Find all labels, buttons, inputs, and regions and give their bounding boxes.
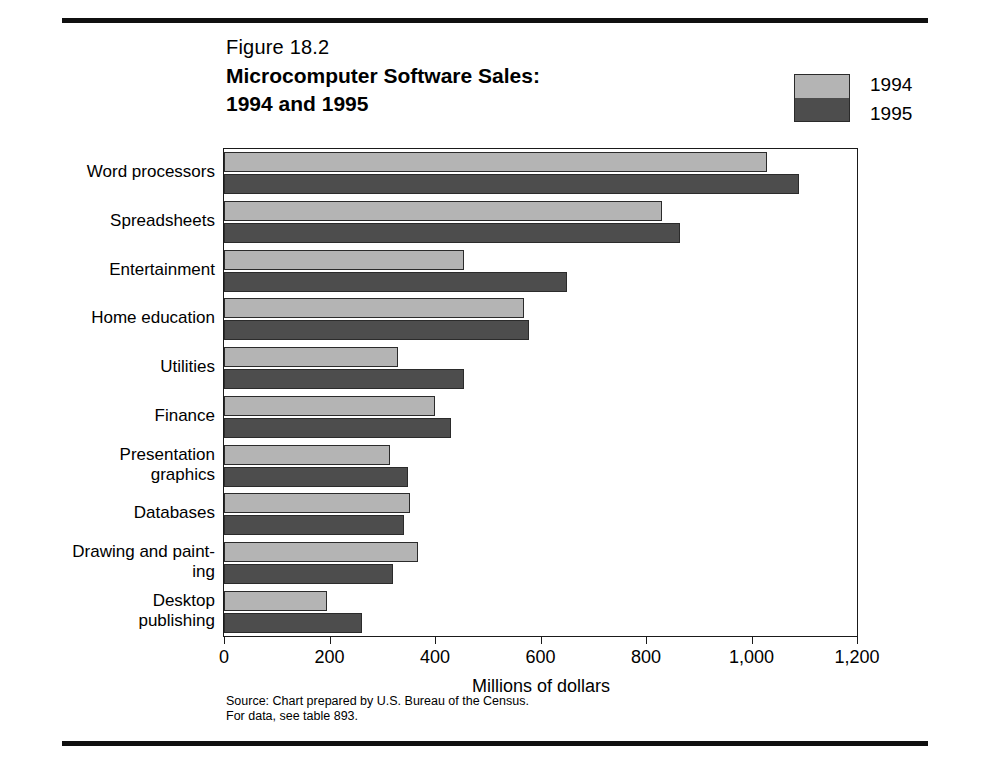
- category-label-line: Entertainment: [0, 260, 215, 280]
- x-tick-label-1000: 1,000: [729, 647, 774, 668]
- category-label-line: Utilities: [0, 357, 215, 377]
- category-label-line: publishing: [0, 611, 215, 631]
- legend-label-1994: 1994: [870, 70, 912, 99]
- bar-1994-desktop-publishing: [224, 591, 327, 611]
- category-label-finance: Finance: [0, 406, 215, 426]
- bar-1995-finance: [224, 418, 451, 438]
- category-label-line: Home education: [0, 308, 215, 328]
- bar-1994-home-education: [224, 298, 524, 318]
- category-label-line: Desktop: [0, 591, 215, 611]
- bar-1995-databases: [224, 515, 404, 535]
- chart-area: Word processorsSpreadsheetsEntertainment…: [0, 140, 990, 660]
- x-tick-label-400: 400: [420, 647, 450, 668]
- x-tick-400: [435, 637, 436, 644]
- plot-frame: [223, 148, 858, 637]
- source-note: Source: Chart prepared by U.S. Bureau of…: [226, 694, 529, 724]
- x-tick-800: [646, 637, 647, 644]
- bar-1995-utilities: [224, 369, 464, 389]
- chart-legend: 1994 1995: [794, 70, 964, 128]
- bar-1994-spreadsheets: [224, 201, 662, 221]
- source-line-2: For data, see table 893.: [226, 709, 529, 724]
- category-label-line: Word processors: [0, 162, 215, 182]
- category-label-word-processors: Word processors: [0, 162, 215, 182]
- category-label-line: Finance: [0, 406, 215, 426]
- bar-1994-entertainment: [224, 250, 464, 270]
- bar-1994-finance: [224, 396, 435, 416]
- category-label-line: Databases: [0, 503, 215, 523]
- category-label-utilities: Utilities: [0, 357, 215, 377]
- category-label-line: Drawing and paint-: [0, 542, 215, 562]
- category-label-entertainment: Entertainment: [0, 260, 215, 280]
- x-tick-1200: [857, 637, 858, 644]
- x-tick-label-800: 800: [631, 647, 661, 668]
- category-axis-labels: Word processorsSpreadsheetsEntertainment…: [0, 140, 215, 637]
- bar-1995-drawing-and-painting: [224, 564, 393, 584]
- x-tick-label-1200: 1,200: [834, 647, 879, 668]
- bar-1994-word-processors: [224, 152, 767, 172]
- value-axis: 02004006008001,0001,200: [223, 637, 859, 638]
- figure-title: Microcomputer Software Sales: 1994 and 1…: [226, 62, 540, 118]
- bar-1995-desktop-publishing: [224, 613, 362, 633]
- category-label-line: Presentation: [0, 445, 215, 465]
- category-label-presentation-graphics: Presentationgraphics: [0, 445, 215, 485]
- x-tick-200: [330, 637, 331, 644]
- bar-1994-presentation-graphics: [224, 445, 390, 465]
- bar-1994-utilities: [224, 347, 398, 367]
- source-line-1: Source: Chart prepared by U.S. Bureau of…: [226, 694, 529, 709]
- x-tick-label-200: 200: [314, 647, 344, 668]
- category-label-spreadsheets: Spreadsheets: [0, 211, 215, 231]
- x-tick-label-0: 0: [219, 647, 229, 668]
- legend-swatch-1995: [795, 98, 849, 121]
- legend-labels: 1994 1995: [870, 70, 912, 128]
- bar-1995-spreadsheets: [224, 223, 680, 243]
- bar-1995-word-processors: [224, 174, 799, 194]
- x-tick-0: [224, 637, 225, 644]
- x-tick-600: [541, 637, 542, 644]
- bar-1995-entertainment: [224, 272, 567, 292]
- figure-title-line-2: 1994 and 1995: [226, 90, 540, 118]
- category-label-line: Spreadsheets: [0, 211, 215, 231]
- legend-swatch-stack: [794, 74, 850, 122]
- x-tick-1000: [752, 637, 753, 644]
- legend-label-1995: 1995: [870, 99, 912, 128]
- category-label-line: ing: [0, 562, 215, 582]
- legend-swatch-1994: [795, 75, 849, 98]
- bar-1994-drawing-and-painting: [224, 542, 418, 562]
- x-tick-label-600: 600: [525, 647, 555, 668]
- category-label-drawing-and-painting: Drawing and paint-ing: [0, 542, 215, 582]
- figure-title-line-1: Microcomputer Software Sales:: [226, 62, 540, 90]
- category-label-desktop-publishing: Desktoppublishing: [0, 591, 215, 631]
- figure-number: Figure 18.2: [226, 36, 329, 59]
- category-label-databases: Databases: [0, 503, 215, 523]
- bottom-rule: [62, 741, 928, 746]
- category-label-home-education: Home education: [0, 308, 215, 328]
- category-label-line: graphics: [0, 465, 215, 485]
- bar-1995-presentation-graphics: [224, 467, 408, 487]
- top-rule: [62, 18, 928, 23]
- bar-1995-home-education: [224, 320, 529, 340]
- bar-1994-databases: [224, 493, 410, 513]
